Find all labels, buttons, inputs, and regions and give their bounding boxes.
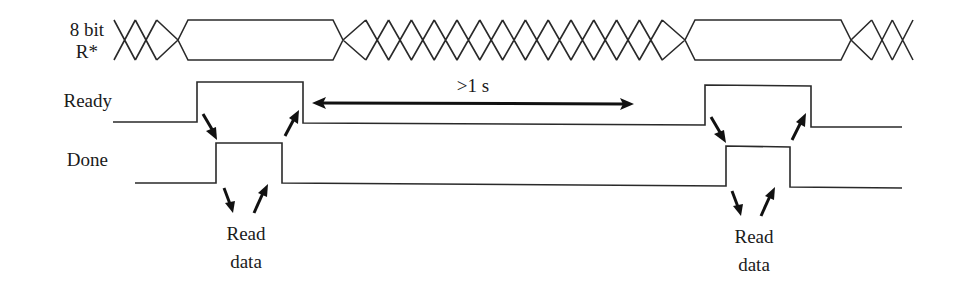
bus-label-line1: 8 bit	[70, 19, 105, 40]
read-data-down-arrow	[732, 191, 743, 216]
read-data-left-line2: data	[230, 251, 262, 272]
bus-waveform	[114, 20, 913, 60]
bus-changing-segment-2	[343, 20, 685, 60]
ready-label: Ready	[63, 90, 112, 111]
ready-to-done-arrow	[203, 114, 217, 140]
bus-valid-segment-2	[685, 20, 851, 60]
timing-diagram: 8 bit R* Ready Done >1 s	[0, 0, 956, 289]
done-to-ready-arrow	[285, 110, 299, 136]
bus-label-line2: R*	[76, 41, 98, 62]
bus-valid-segment-1	[178, 20, 343, 60]
read-data-left-line1: Read	[226, 223, 266, 244]
handshake-arrows-left	[203, 110, 299, 213]
done-to-ready-arrow	[792, 113, 806, 140]
interval-double-arrow	[312, 97, 634, 110]
bus-changing-segment-3	[851, 20, 913, 60]
read-data-up-arrow	[254, 184, 268, 213]
done-label: Done	[67, 149, 108, 170]
read-data-right-line2: data	[738, 254, 770, 275]
read-data-up-arrow	[761, 187, 775, 216]
done-waveform	[135, 143, 902, 188]
ready-to-done-arrow	[711, 117, 726, 143]
interval-label: >1 s	[457, 75, 489, 96]
read-data-down-arrow	[224, 188, 235, 213]
read-data-right-line1: Read	[734, 226, 774, 247]
bus-changing-segment-1	[114, 20, 178, 60]
